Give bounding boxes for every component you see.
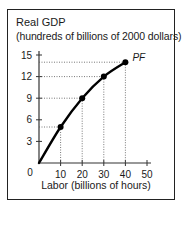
- y-tick-label: 6: [26, 114, 32, 125]
- y-tick-label: 12: [21, 71, 33, 82]
- data-point-marker: [122, 59, 128, 65]
- y-tick-label: 15: [21, 50, 33, 61]
- curve-label-pf: PF: [132, 52, 146, 63]
- data-point-marker: [79, 95, 85, 101]
- data-point-marker: [101, 74, 107, 80]
- production-function-curve: [39, 62, 125, 163]
- x-axis-label: Labor (billions of hours): [0, 179, 184, 191]
- data-point-marker: [58, 124, 64, 130]
- origin-label: 0: [27, 167, 33, 178]
- y-tick-label: 9: [26, 93, 32, 104]
- y-tick-label: 3: [26, 136, 32, 147]
